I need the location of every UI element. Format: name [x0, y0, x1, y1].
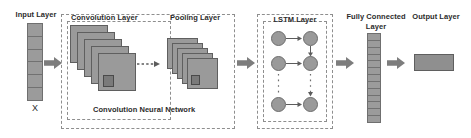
convolution-kernel-icon [103, 75, 114, 87]
convolution-layer-label: Convolution Layer [71, 13, 138, 22]
input-cell [28, 24, 42, 37]
pooling-layer-label: Pooling Layer [170, 13, 220, 22]
vertical-ellipsis-icon [307, 74, 314, 97]
cnn-lstm-architecture-diagram: Input Layer X Convolution Layer Pooling [0, 0, 471, 138]
fully-connected-cell [368, 102, 380, 109]
lstm-connector-arrow [286, 101, 303, 108]
input-symbol-label: X [20, 104, 50, 113]
lstm-connector-arrow [286, 60, 303, 67]
output-layer-label: Output Layer [405, 12, 467, 21]
input-layer-column [27, 23, 43, 101]
lstm-layer-label: LSTM Layer [263, 15, 327, 24]
fully-connected-cell [368, 96, 380, 103]
input-cell [28, 37, 42, 50]
fully-connected-cell [368, 89, 380, 96]
fully-connected-cell [368, 82, 380, 89]
pooling-feature-map-stack [167, 38, 231, 98]
output-layer-block [414, 54, 454, 71]
lstm-vertical-connector-arrow [307, 46, 314, 57]
fully-connected-cell [368, 41, 380, 48]
cnn-caption-label: Convolution Neural Network [93, 105, 195, 114]
lstm-node [303, 97, 318, 112]
lstm-node [271, 56, 286, 71]
lstm-connector-arrow [286, 35, 303, 42]
fully-connected-cell [368, 68, 380, 75]
fully-connected-label-line1: Fully Connected [340, 12, 412, 21]
arrow-fully-connected-to-output [387, 57, 405, 69]
input-layer-label: Input Layer [6, 10, 66, 19]
input-cell [28, 50, 42, 63]
fully-connected-column [367, 33, 381, 123]
lstm-node [303, 56, 318, 71]
input-cell [28, 88, 42, 100]
fully-connected-cell [368, 109, 380, 116]
fully-connected-cell [368, 116, 380, 122]
vertical-ellipsis-icon [275, 74, 282, 95]
fully-connected-cell [368, 48, 380, 55]
dashed-right-arrow-icon [137, 60, 161, 68]
input-cell [28, 75, 42, 88]
fully-connected-cell [368, 34, 380, 41]
pooling-kernel-icon [191, 75, 200, 85]
lstm-node [303, 31, 318, 46]
arrow-lstm-to-fully-connected [336, 57, 354, 69]
fully-connected-label-line2: Layer [340, 22, 412, 31]
arrow-input-to-cnn [44, 57, 62, 69]
lstm-node [271, 31, 286, 46]
fully-connected-cell [368, 75, 380, 82]
fully-connected-cell [368, 61, 380, 68]
input-cell [28, 62, 42, 75]
fully-connected-cell [368, 55, 380, 62]
arrow-cnn-to-lstm [237, 57, 255, 69]
lstm-node [271, 97, 286, 112]
